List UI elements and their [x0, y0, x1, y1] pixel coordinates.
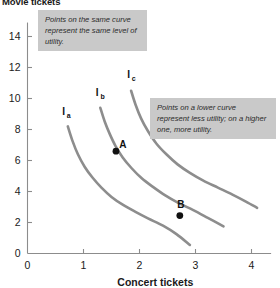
curve-label-Ib: I	[96, 87, 99, 98]
y-tick-label: 14	[9, 30, 21, 42]
y-tick-label: 4	[15, 185, 21, 197]
x-tick-label: 4	[249, 259, 255, 271]
curve-label-Ia: I	[62, 106, 65, 117]
curve-Ia	[68, 126, 190, 245]
curve-label-Ic: I	[127, 69, 130, 80]
annotation-lower-curve: Points on a lower curve represent less u…	[150, 98, 276, 139]
point-marker-A	[113, 148, 120, 155]
x-tick-label: 0	[25, 259, 31, 271]
indifference-curves: IaIbIc	[62, 69, 257, 245]
x-tick-label: 2	[137, 259, 143, 271]
y-tick-label: 8	[15, 123, 21, 135]
curve-label-subscript-Ia: a	[67, 112, 71, 119]
y-tick-label: 12	[9, 61, 21, 73]
chart-figure: Movie tickets IaIbIc AB 0246810121401234…	[0, 0, 280, 288]
x-tick-label: 3	[193, 259, 199, 271]
point-label-A: A	[119, 139, 126, 150]
x-axis-title: Concert tickets	[117, 276, 193, 288]
axis-tick-labels: 0246810121401234Concert tickets	[9, 30, 255, 287]
point-marker-B	[176, 212, 183, 219]
curve-label-subscript-Ic: c	[132, 75, 136, 82]
y-tick-label: 10	[9, 92, 21, 104]
y-tick-label: 0	[15, 247, 21, 259]
curve-label-subscript-Ib: b	[100, 93, 104, 100]
x-tick-label: 1	[81, 259, 87, 271]
y-tick-label: 2	[15, 216, 21, 228]
y-tick-label: 6	[15, 154, 21, 166]
point-label-B: B	[177, 199, 184, 210]
annotation-same-curve: Points on the same curve represent the s…	[38, 10, 147, 51]
data-points: AB	[113, 139, 185, 219]
